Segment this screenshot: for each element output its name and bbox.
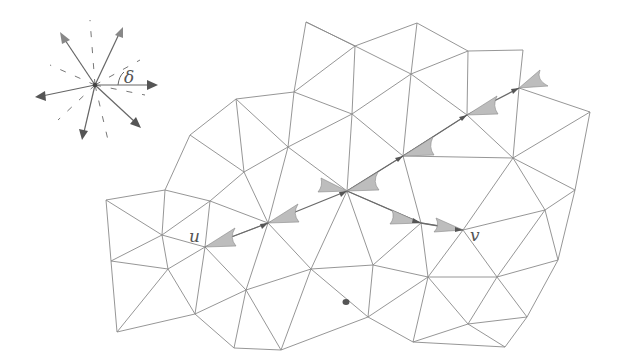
label-u: u	[189, 226, 200, 246]
cone-center-forward	[347, 172, 379, 191]
label-v: v	[470, 225, 480, 245]
cone-end	[519, 70, 548, 88]
arrowhead-icon	[395, 156, 403, 162]
cone-at-u	[205, 228, 236, 247]
dashed-ray	[95, 85, 108, 140]
direction-arrow	[84, 85, 95, 132]
cone-node-5	[467, 96, 498, 115]
direction-arrow	[95, 85, 135, 122]
arrowhead-icon	[79, 129, 88, 140]
mesh-diagram: δ u v	[0, 0, 619, 362]
direction-star-inset: δ	[35, 20, 158, 140]
diagram-stage: δ u v	[0, 0, 619, 362]
dashed-ray	[90, 20, 95, 85]
delta-label: δ	[124, 67, 134, 87]
arrowhead-icon	[60, 32, 70, 44]
dashed-ray	[95, 85, 145, 95]
mesh-boundary-top	[306, 22, 523, 88]
arrowhead-icon	[35, 91, 46, 101]
direction-arrow	[95, 34, 119, 85]
star-center	[93, 83, 97, 87]
dashed-ray	[58, 85, 95, 120]
cone-node-4	[403, 137, 434, 156]
marker-dot	[343, 299, 350, 305]
direction-arrow	[42, 85, 95, 96]
arrowhead-icon	[511, 88, 519, 94]
arrowhead-icon	[147, 80, 158, 90]
arrowhead-icon	[115, 27, 123, 38]
